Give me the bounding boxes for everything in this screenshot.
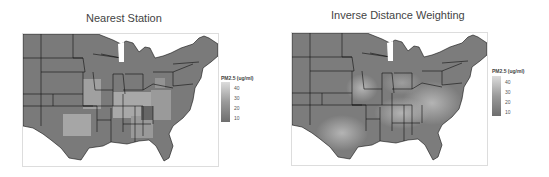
legend-tick: 30 [234,95,240,101]
legend-tick: 40 [505,79,511,85]
legend-title: PM2.5 (ug/ml) [492,68,547,74]
legend-tick: 10 [505,109,511,115]
idw-map [291,32,488,166]
idw-legend: PM2.5 (ug/ml) 40 30 20 10 [492,68,547,128]
legend-title: PM2.5 (ug/ml) [221,75,271,81]
legend-tick: 10 [234,115,240,121]
legend-colorbar [221,82,230,122]
legend-tick: 30 [505,89,511,95]
legend-tick: 40 [234,85,240,91]
legend-colorbar [492,76,501,116]
nearest-station-panel: Nearest Station PM2.5 (ug/ml) [0,0,275,177]
nearest-station-legend: PM2.5 (ug/ml) 40 30 20 10 [221,75,271,135]
nearest-station-map [22,33,219,167]
legend-tick: 20 [505,99,511,105]
chart-title: Nearest Station [86,12,162,24]
chart-title: Inverse Distance Weighting [331,9,465,21]
idw-panel: Inverse Distance Weighting PM2.5 (ug/m [275,0,549,177]
legend-tick: 20 [234,105,240,111]
